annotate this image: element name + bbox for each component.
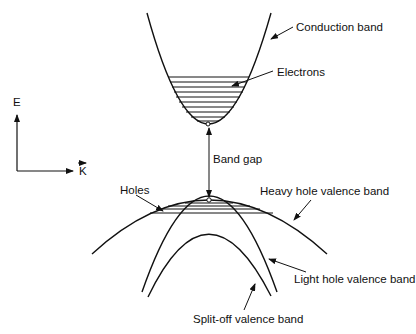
split-off-pointer-arrow-icon bbox=[244, 284, 255, 310]
axes bbox=[17, 115, 86, 171]
holes-label: Holes bbox=[120, 185, 149, 197]
electron-levels bbox=[168, 77, 249, 121]
electrons-label: Electrons bbox=[277, 67, 325, 79]
k-axis-label: K bbox=[79, 166, 87, 178]
heavy-hole-band-curve bbox=[92, 200, 327, 254]
split-off-band-curve bbox=[148, 234, 271, 297]
conduction-pointer-arrow-icon bbox=[271, 27, 293, 39]
valence-maximum-dot bbox=[207, 198, 211, 202]
conduction-band bbox=[147, 13, 271, 126]
light-hole-label: Light hole valence band bbox=[294, 274, 416, 286]
electrons-pointer-arrow-icon bbox=[232, 71, 273, 86]
energy-axis-label: E bbox=[13, 97, 21, 109]
heavy-hole-label: Heavy hole valence band bbox=[260, 186, 389, 198]
band-gap-label: Band gap bbox=[213, 154, 262, 166]
light-hole-pointer-arrow-icon bbox=[269, 259, 306, 272]
conduction-band-label: Conduction band bbox=[296, 22, 383, 34]
heavy-hole-pointer-arrow-icon bbox=[294, 200, 311, 220]
conduction-minimum-dot bbox=[206, 122, 210, 126]
holes-pointer-arrow-icon bbox=[136, 195, 163, 211]
split-off-label: Split-off valence band bbox=[193, 314, 303, 326]
